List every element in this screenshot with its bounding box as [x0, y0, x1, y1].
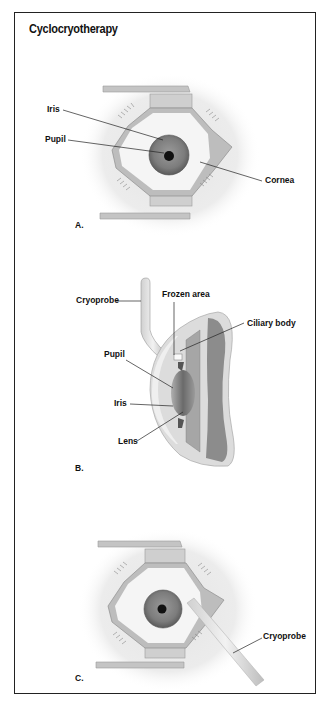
speculum-bottom-arm-c — [96, 662, 184, 668]
speculum-top-arm-c — [98, 541, 182, 547]
callout-cryoprobe-b: Cryoprobe — [76, 295, 119, 305]
speculum-top-blade-c — [145, 549, 185, 563]
callout-ciliary-body: Ciliary body — [247, 318, 296, 328]
callout-cryoprobe-c: Cryoprobe — [263, 631, 306, 641]
pupil-a — [164, 151, 174, 161]
callout-lens: Lens — [118, 436, 138, 446]
panel-label-c: C. — [75, 673, 84, 683]
panel-label-a: A. — [75, 220, 84, 230]
callout-pupil-a: Pupil — [45, 134, 66, 144]
frozen-area — [174, 354, 182, 360]
lens-b — [171, 370, 195, 416]
callout-iris-b: Iris — [114, 398, 127, 408]
panel-a: Iris Pupil Cornea A. — [45, 73, 295, 237]
callout-frozen-area: Frozen area — [162, 289, 210, 299]
pupil-c — [158, 605, 167, 614]
speculum-bottom-arm — [100, 213, 190, 219]
panel-c: Cryoprobe C. — [75, 528, 306, 692]
speculum-top-arm — [103, 86, 190, 92]
panel-label-b: B. — [75, 463, 84, 473]
callout-pupil-b: Pupil — [104, 349, 125, 359]
callout-cornea-a: Cornea — [265, 175, 295, 185]
callout-iris-a: Iris — [47, 104, 60, 114]
panel-b: Cryoprobe Frozen area Ciliary body Pupil… — [75, 278, 296, 473]
speculum-top-blade — [150, 94, 192, 108]
